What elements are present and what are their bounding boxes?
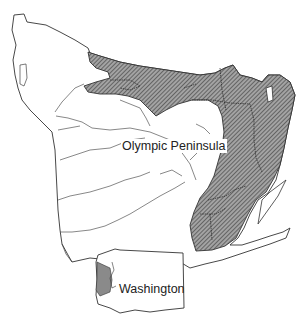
washington-inset [96,249,184,313]
olympic-peninsula-label: Olympic Peninsula [121,139,227,153]
olympic-peninsula-map [0,0,301,328]
washington-label: Washington [119,282,185,296]
